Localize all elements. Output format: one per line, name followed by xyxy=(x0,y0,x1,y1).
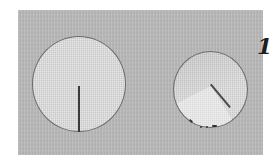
stitch-mark xyxy=(200,126,202,128)
figure-number: 1 xyxy=(257,33,272,59)
cone-fold-overlap xyxy=(174,52,247,127)
stitch-mark xyxy=(206,126,208,128)
photo-background: 1 xyxy=(18,10,263,155)
radial-slit xyxy=(78,86,80,132)
cone-fabric-circle xyxy=(173,51,248,128)
stitch-mark xyxy=(212,125,217,127)
